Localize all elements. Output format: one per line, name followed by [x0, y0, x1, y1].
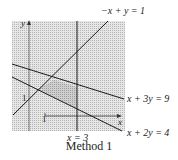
y-axis-label: y	[21, 18, 25, 28]
label-x-plus-2y-eq-4: x + 2y = 4	[127, 127, 169, 138]
figure-caption: Method 1	[0, 139, 178, 154]
x-axis-label: x	[118, 117, 122, 127]
label-neg-x-plus-y-eq-1: −x + y = 1	[101, 5, 145, 16]
y-tick-label: 1	[22, 93, 27, 103]
x-tick-label: 1	[42, 114, 47, 124]
label-x-plus-3y-eq-9: x + 3y = 9	[127, 93, 169, 104]
